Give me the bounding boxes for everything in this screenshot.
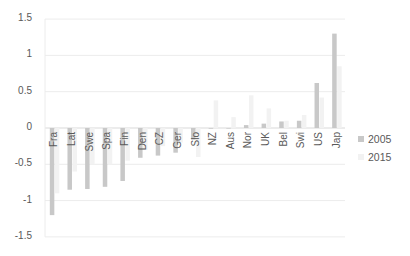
bar-2005-Swi [297, 121, 302, 128]
legend-swatch-2015 [358, 154, 364, 160]
y-tick-label: -1.5 [2, 230, 32, 241]
bar-2015-US [320, 98, 325, 128]
bar-2015-UK [267, 108, 272, 128]
bar-2005-US [315, 83, 320, 128]
legend-label-2015: 2015 [368, 151, 391, 163]
legend-item-2005: 2005 [358, 133, 391, 145]
bar-2015-Swi [302, 115, 307, 128]
x-category-label: Nor [242, 131, 253, 148]
legend-label-2005: 2005 [368, 133, 391, 145]
x-category-label: Jap [331, 132, 342, 149]
plot-area: FraLatSweSpaFinDenCZGerSloNZAusNorUKBelS… [0, 0, 410, 256]
y-tick-label: -1 [2, 194, 32, 205]
bar-2005-Nor [244, 125, 249, 128]
x-category-label: Lat [66, 132, 77, 146]
bar-2015-Nor [249, 95, 254, 128]
x-category-label: Den [137, 132, 148, 150]
legend-item-2015: 2015 [358, 151, 391, 163]
y-tick-label: -0.5 [2, 157, 32, 168]
y-tick-label: 0 [2, 121, 32, 132]
bar-2005-UK [262, 124, 267, 128]
x-category-label: CZ [154, 132, 165, 145]
bar-2015-Aus [231, 117, 236, 128]
bar-chart: FraLatSweSpaFinDenCZGerSloNZAusNorUKBelS… [0, 0, 410, 256]
x-category-label: Ger [172, 131, 183, 148]
bar-2005-Aus [226, 128, 231, 129]
x-category-label: Swi [295, 132, 306, 148]
x-category-label: Bel [278, 132, 289, 146]
x-category-label: Aus [225, 132, 236, 149]
y-tick-label: 1 [2, 48, 32, 59]
x-category-label: Fra [48, 132, 59, 147]
bar-2005-Jap [332, 34, 337, 128]
x-category-label: UK [260, 132, 271, 146]
y-tick-label: 0.5 [2, 85, 32, 96]
x-category-label: NZ [207, 132, 218, 145]
x-category-label: Slo [190, 132, 201, 147]
x-category-label: US [313, 132, 324, 146]
bar-2015-Jap [337, 66, 342, 128]
bar-2015-NZ [214, 100, 219, 128]
bar-2015-Bel [284, 121, 289, 128]
bar-2005-NZ [209, 128, 214, 129]
x-category-label: Fin [119, 132, 130, 146]
x-category-label: Spa [101, 132, 112, 150]
y-tick-label: 1.5 [2, 12, 32, 23]
bar-2005-Bel [279, 121, 284, 128]
legend-swatch-2005 [358, 136, 364, 142]
x-category-label: Swe [84, 132, 95, 152]
